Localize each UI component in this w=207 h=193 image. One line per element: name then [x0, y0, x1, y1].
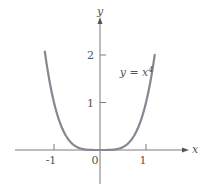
y-axis-label: y	[96, 5, 104, 18]
function-annotation: y = x4	[119, 65, 154, 79]
y-tick-label: 2	[87, 49, 94, 62]
x-tick-label: 1	[140, 154, 147, 167]
x-axis-arrow-icon	[182, 148, 189, 153]
y-tick-label: 1	[87, 97, 94, 110]
x-tick-label: 0	[92, 154, 99, 167]
chart: x y -10112 y = x4	[0, 0, 207, 193]
x-tick-label: -1	[46, 154, 57, 167]
y-axis-arrow-icon	[98, 17, 103, 24]
x-axis-label: x	[192, 143, 199, 156]
